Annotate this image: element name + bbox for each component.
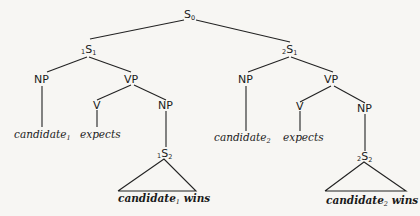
triangle-right (325, 162, 406, 191)
node-v-left: V (93, 99, 101, 112)
leaf-candidate-2: candidate2 (214, 131, 271, 145)
node-s1-right: 2S1 (282, 43, 297, 57)
node-vp-left: VP (124, 73, 139, 86)
node-v-right: V (296, 100, 304, 113)
leaf-candidate-1-wins: candidate1 wins (118, 192, 210, 206)
node-np-right: NP (238, 73, 253, 86)
leaf-candidate-2-wins: candidate2 wins (326, 194, 418, 208)
node-np-left: NP (34, 73, 49, 86)
node-np-inner-left: NP (158, 99, 173, 112)
leaf-expects-right: expects (283, 131, 324, 143)
node-vp-right: VP (324, 73, 339, 86)
leaf-candidate-1: candidate1 (14, 128, 71, 142)
syntax-tree-diagram: S0 1S1 2S1 NP VP V NP NP VP V NP candida… (0, 0, 420, 216)
triangle-left (118, 159, 196, 191)
node-s0: S0 (184, 8, 195, 22)
node-s2-left: 1S2 (157, 147, 172, 161)
node-s1-left: 1S1 (81, 43, 96, 57)
leaf-expects-left: expects (80, 128, 121, 140)
node-np-inner-right: NP (357, 102, 372, 115)
node-s2-right: 2S2 (357, 150, 372, 164)
